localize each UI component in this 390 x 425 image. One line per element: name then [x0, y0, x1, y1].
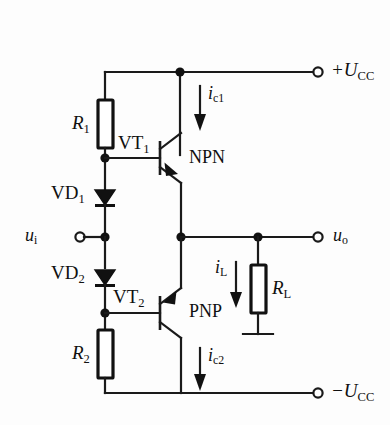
diode-vd1-triangle — [95, 190, 115, 205]
label-transistor-vt2: VT2 — [113, 287, 145, 309]
vt1-emitter-arrow — [165, 163, 179, 177]
diode-vd2-triangle — [95, 270, 115, 285]
vt1-collector-lead — [160, 133, 181, 149]
node-top-rail — [175, 67, 184, 76]
label-resistor-rl: RL — [272, 278, 291, 300]
vt2-collector-lead — [160, 322, 181, 338]
terminal-ucc-negative[interactable] — [313, 388, 322, 397]
label-input-voltage: ui — [25, 226, 37, 247]
label-pnp-type: PNP — [189, 302, 222, 320]
label-supply-negative: −UCC — [331, 381, 374, 403]
vt2-emitter-arrow — [163, 291, 177, 305]
resistor-rl-body — [251, 265, 266, 313]
label-supply-positive: +UCC — [331, 60, 374, 82]
label-current-ic1: ic1 — [208, 84, 224, 105]
label-diode-vd1: VD1 — [51, 183, 85, 205]
current-ic2-arrowhead — [194, 374, 206, 391]
resistor-r1-body — [98, 100, 113, 148]
label-npn-type: NPN — [189, 148, 225, 166]
label-output-voltage: uo — [333, 226, 348, 247]
label-resistor-r2: R2 — [72, 343, 90, 365]
circuit-diagram: +UCC −UCC ui uo R1 R2 RL VD1 VD2 VT1 VT2… — [0, 0, 390, 425]
current-ic1-arrowhead — [194, 114, 206, 131]
label-diode-vd2: VD2 — [51, 263, 85, 285]
label-transistor-vt1: VT1 — [118, 133, 150, 155]
terminal-ucc-positive[interactable] — [313, 67, 322, 76]
resistor-r2-body — [98, 330, 113, 378]
label-current-il: iL — [215, 258, 227, 279]
label-resistor-r1: R1 — [72, 113, 90, 135]
terminal-output[interactable] — [313, 232, 322, 241]
label-current-ic2: ic2 — [208, 346, 224, 367]
current-il-arrowhead — [230, 292, 242, 308]
